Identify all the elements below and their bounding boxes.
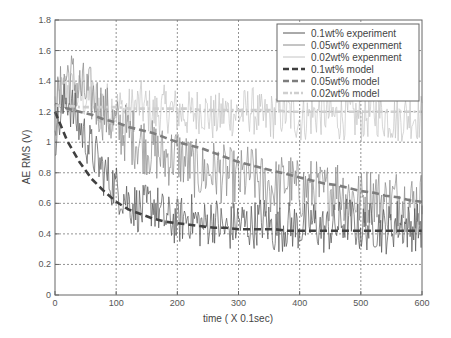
legend-label: 0.05wt% expenment	[311, 40, 402, 51]
x-axis-ticks: 0100200300400500600	[52, 291, 429, 308]
y-axis-ticks: 00.20.40.60.811.21.41.61.8	[38, 15, 59, 300]
x-axis-label: time ( X 0.1sec)	[203, 313, 273, 324]
legend: 0.1wt% experiment0.05wt% expenment0.02wt…	[277, 24, 419, 101]
x-tick-label: 500	[353, 298, 368, 308]
y-tick-label: 1.4	[38, 76, 51, 86]
x-tick-label: 300	[231, 298, 246, 308]
y-tick-label: 0	[46, 290, 51, 300]
y-axis-label: AE RMS (V)	[21, 130, 32, 184]
chart: 00.20.40.60.811.21.41.61.8 0100200300400…	[0, 0, 451, 338]
x-tick-label: 100	[109, 298, 124, 308]
x-tick-label: 200	[170, 298, 185, 308]
x-tick-label: 600	[414, 298, 429, 308]
legend-label: 0.1wt% model	[311, 64, 374, 75]
x-tick-label: 0	[52, 298, 57, 308]
legend-label: 0.02wt% expenment	[311, 52, 402, 63]
y-tick-label: 0.2	[38, 259, 51, 269]
y-tick-label: 1.6	[38, 46, 51, 56]
y-tick-label: 1.2	[38, 107, 51, 117]
x-tick-label: 400	[292, 298, 307, 308]
y-tick-label: 1.8	[38, 15, 51, 25]
y-tick-label: 0.6	[38, 198, 51, 208]
y-tick-label: 0.4	[38, 229, 51, 239]
y-tick-label: 0.8	[38, 168, 51, 178]
y-tick-label: 1	[46, 137, 51, 147]
legend-label: 0.05wt% model	[311, 76, 379, 87]
legend-label: 0.02wt% model	[311, 88, 379, 99]
legend-label: 0.1wt% experiment	[311, 28, 396, 39]
